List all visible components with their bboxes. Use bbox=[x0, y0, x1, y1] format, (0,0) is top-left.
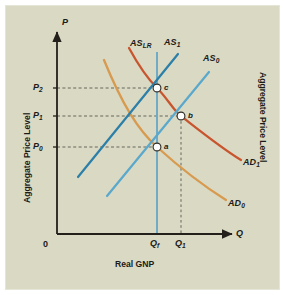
point-label-a: a bbox=[164, 142, 168, 151]
curve-label-as-1: AS1 bbox=[164, 37, 180, 47]
point-marker-b bbox=[177, 112, 185, 120]
axis-symbol-q: Q bbox=[236, 228, 243, 238]
point-label-c: c bbox=[164, 83, 168, 92]
point-label-b: b bbox=[188, 111, 193, 120]
curve-label-as-0: AS0 bbox=[203, 53, 219, 63]
tick-label-p2: P2 bbox=[33, 82, 43, 92]
tick-label-qf: Qf bbox=[150, 238, 159, 248]
curve-label-ad-0: AD0 bbox=[228, 198, 245, 208]
tick-label-q1: Q1 bbox=[175, 238, 186, 248]
axis-symbol-p: P bbox=[62, 17, 68, 27]
curve-ad-1 bbox=[129, 48, 241, 160]
bottom-axis-title: Real GNP bbox=[115, 259, 154, 269]
point-marker-c bbox=[153, 84, 161, 92]
curve-label-as-lr: ASLR bbox=[130, 38, 152, 48]
tick-label-p0: P0 bbox=[33, 141, 43, 151]
guide-lines bbox=[57, 88, 181, 234]
left-axis-title: Aggregate Price Level bbox=[22, 113, 32, 203]
point-marker-a bbox=[153, 143, 161, 151]
origin-label: 0 bbox=[43, 239, 48, 249]
right-axis-title: Aggregate Price Level bbox=[258, 72, 268, 162]
as-ad-diagram-figure: P Q 0 P2 P1 P0 Qf Q1 ASLR AS1 AS0 AD1 AD… bbox=[0, 0, 285, 295]
tick-label-p1: P1 bbox=[33, 110, 43, 120]
curve-as-1 bbox=[78, 54, 178, 177]
